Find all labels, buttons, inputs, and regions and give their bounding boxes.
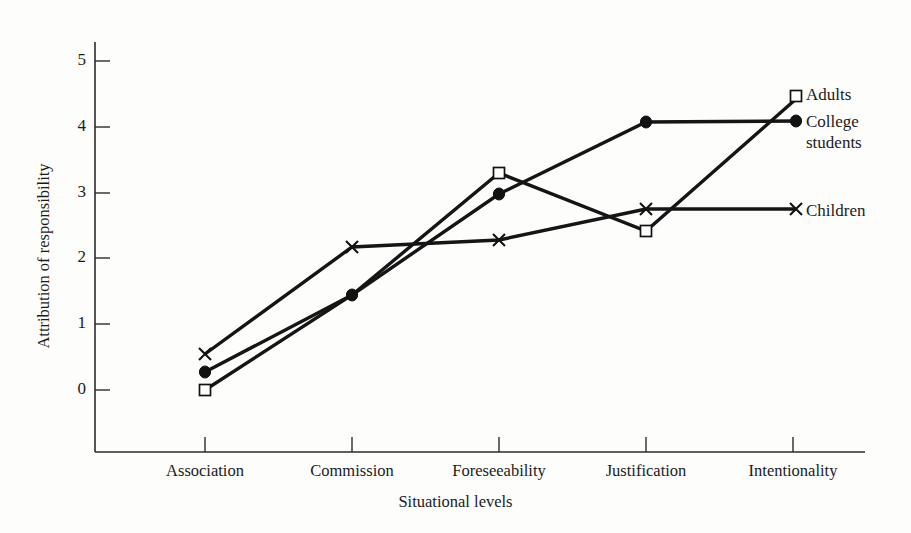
adults-point-justification [641,226,652,237]
adults-point-association [200,385,211,396]
y-tick-marks [95,61,110,390]
adults-line [205,99,796,390]
series-adults [205,99,796,390]
y-tick-label-2: 2 [58,247,86,267]
y-tick-label-0: 0 [58,379,86,399]
college-point-foreseeability [493,188,504,200]
y-tick-label-4: 4 [58,116,86,136]
legend-label-college-line1: College [806,112,859,131]
chart-figure: 5 4 3 2 1 0 Association Commission Fores… [0,0,911,533]
line-chart-canvas [0,0,911,533]
x-tick-label-association: Association [166,461,244,481]
x-tick-label-justification: Justification [606,461,687,481]
x-tick-label-commission: Commission [310,461,393,481]
legend-label-children: Children [806,200,866,221]
legend-label-college-line2: students [806,133,862,152]
x-tick-marks [205,437,793,452]
x-axis-title: Situational levels [0,492,911,512]
adults-point-intentionality [791,91,802,102]
college-point-association [199,366,210,378]
x-tick-label-intentionality: Intentionality [749,461,838,481]
adults-markers [200,91,802,396]
children-point-association [199,348,211,360]
y-tick-label-5: 5 [58,50,86,70]
legend-label-college-students: Collegestudents [806,111,862,153]
adults-point-foreseeability [494,168,505,179]
x-tick-label-foreseeability: Foreseeability [452,461,545,481]
y-tick-label-3: 3 [58,182,86,202]
college-point-intentionality [790,115,801,127]
y-tick-label-1: 1 [58,313,86,333]
college-students-markers [199,115,801,378]
college-point-justification [640,116,651,128]
y-axis-title: Attribution of responsibility [34,126,54,386]
legend-label-adults: Adults [806,84,851,105]
college-point-commission [346,289,357,301]
